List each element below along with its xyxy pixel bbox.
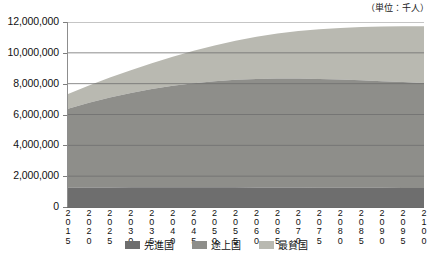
legend-swatch-icon — [259, 241, 274, 249]
legend-swatch-icon — [192, 241, 207, 249]
legend-item[interactable]: 最貧国 — [259, 240, 308, 251]
chart-legend: 先進国途上国最貧国 — [0, 238, 433, 252]
x-axis-line — [67, 207, 424, 208]
y-axis-tick-label: 6,000,000 — [13, 109, 59, 120]
area-chart-svg — [68, 22, 424, 207]
legend-label: 最貧国 — [278, 240, 308, 251]
legend-label: 先進国 — [144, 240, 174, 251]
population-stacked-area-chart: （単位：千人） 02,000,0004,000,0006,000,0008,00… — [0, 0, 433, 257]
legend-item[interactable]: 途上国 — [192, 240, 241, 251]
y-axis-tick-label: 0 — [53, 201, 59, 212]
legend-swatch-icon — [125, 241, 140, 249]
y-axis-tick-label: 4,000,000 — [13, 139, 59, 150]
plot-area — [68, 22, 424, 207]
y-axis-tick-label: 8,000,000 — [13, 78, 59, 89]
area-band-developed — [68, 187, 424, 207]
area-bands — [68, 26, 424, 207]
legend-item[interactable]: 先進国 — [125, 240, 174, 251]
y-axis-labels: 02,000,0004,000,0006,000,0008,000,00010,… — [0, 0, 66, 230]
y-axis-tick-label: 2,000,000 — [13, 170, 59, 181]
y-axis-tick-label: 12,000,000 — [7, 16, 59, 27]
unit-note: （単位：千人） — [366, 2, 429, 14]
y-axis-tick-label: 10,000,000 — [7, 47, 59, 58]
legend-label: 途上国 — [211, 240, 241, 251]
